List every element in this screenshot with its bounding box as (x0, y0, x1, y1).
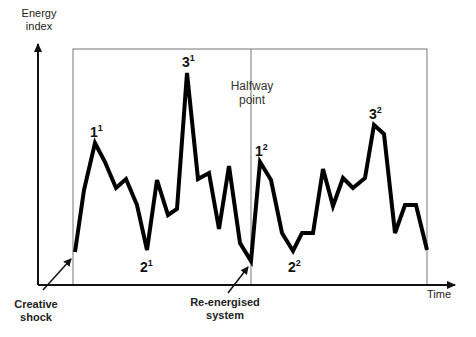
re-energised-arrow (228, 267, 248, 293)
y-axis-label-line2: index (18, 20, 60, 33)
halfway-label-line1: Halfway (222, 79, 282, 93)
creative-shock-line2: shock (10, 311, 62, 324)
peak-label-3: 12 (255, 142, 268, 159)
re-energised-label: Re-energised system (185, 296, 265, 322)
re-energised-line2: system (185, 309, 265, 322)
creative-shock-line1: Creative (10, 298, 62, 311)
peak-label-1: 21 (140, 258, 153, 275)
peak-label-2: 31 (182, 53, 195, 70)
peak-label-0: 11 (90, 123, 103, 140)
y-axis-label-line1: Energy (18, 7, 60, 20)
energy-cycle-diagram: 112131122232 Energy index Halfway point … (0, 0, 476, 337)
y-axis-label: Energy index (18, 7, 60, 33)
peak-label-5: 32 (369, 105, 382, 122)
creative-shock-label: Creative shock (10, 298, 62, 324)
x-axis-label: Time (427, 288, 451, 300)
halfway-label: Halfway point (222, 79, 282, 107)
re-energised-line1: Re-energised (185, 296, 265, 309)
peak-label-4: 22 (288, 258, 301, 275)
halfway-label-line2: point (222, 93, 282, 107)
chart-canvas: 112131122232 (0, 0, 476, 337)
